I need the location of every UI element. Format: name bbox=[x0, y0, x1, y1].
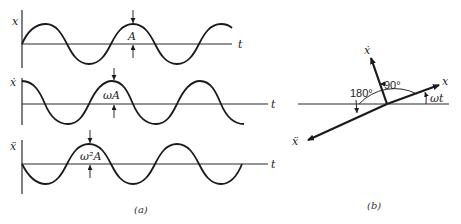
t-axis-label: t bbox=[271, 98, 276, 111]
plot-acceleration: ẍ t ω²A bbox=[10, 130, 276, 194]
y-axis-label: ẋ bbox=[10, 76, 17, 89]
t-axis-label: t bbox=[271, 158, 276, 171]
plot-displacement: x t A bbox=[12, 10, 243, 68]
y-axis-label: x bbox=[12, 15, 19, 28]
angle-180-label: 180° bbox=[350, 87, 373, 99]
omega-t-arc bbox=[425, 92, 426, 104]
x-phasor-label: x bbox=[442, 75, 449, 88]
amplitude-label: ωA bbox=[103, 89, 120, 102]
acceleration-phasor bbox=[308, 104, 387, 140]
phasor-diagram: x t A ẋ t ωA ẍ t ω²A (a) x ẋ bbox=[0, 0, 461, 224]
amplitude-label: A bbox=[127, 30, 136, 43]
plot-velocity: ẋ t ωA bbox=[10, 68, 276, 125]
acceleration-phasor-label: ẍ bbox=[292, 135, 299, 148]
velocity-curve bbox=[22, 81, 244, 124]
angle-90-label: 90° bbox=[384, 79, 401, 91]
phasor-panel: x ẋ ẍ 180° 90° ωt bbox=[292, 44, 449, 148]
angle-180-arrow bbox=[356, 100, 357, 113]
caption-a: (a) bbox=[134, 204, 148, 215]
caption-b: (b) bbox=[367, 200, 381, 211]
omega-t-label: ωt bbox=[430, 92, 444, 105]
t-axis-label: t bbox=[238, 38, 243, 51]
y-axis-label: ẍ bbox=[10, 140, 17, 153]
amplitude-label: ω²A bbox=[80, 150, 101, 163]
velocity-phasor-label: ẋ bbox=[364, 44, 371, 57]
